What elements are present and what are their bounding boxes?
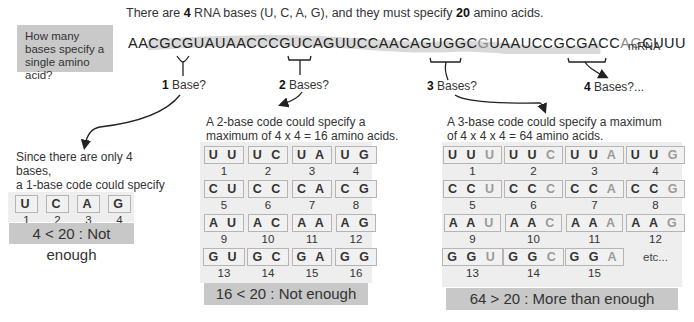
two-base-desc-line: A 2-base code could specify a [206, 115, 406, 129]
codon-tile: U U C [504, 146, 563, 164]
codon-cell: C A7 [290, 179, 334, 211]
codon-cell: C2 [42, 194, 73, 226]
one-base-result: 4 < 20 : Not enough [9, 223, 134, 244]
codon-number: 12 [625, 233, 686, 245]
codon-number: 8 [334, 199, 378, 211]
codon-cell: A C10 [246, 213, 290, 245]
three-base-desc-line: A 3-base code could specify a maximum [447, 115, 687, 129]
codon-tile: C G [335, 180, 376, 198]
codon-tile: U [15, 195, 37, 213]
codon-cell: C C A7 [564, 179, 625, 211]
codon-number: 5 [442, 199, 503, 211]
codon-cell: A A11 [290, 213, 334, 245]
codon-tile: A A C [505, 214, 563, 232]
codon-cell: G G A15 [564, 247, 625, 279]
codon-number: 4 [334, 165, 378, 177]
codon-number: 8 [625, 199, 686, 211]
codon-tile: G G C [503, 248, 563, 266]
codon-cell: A A A11 [564, 213, 625, 245]
codon-number: 3 [290, 165, 334, 177]
codon-tile: A A G [626, 214, 684, 232]
codon-number: 2 [503, 165, 564, 177]
codon-number: 2 [246, 165, 290, 177]
codon-number: 13 [202, 267, 246, 279]
codon-cell: G4 [104, 194, 135, 226]
codon-cell: U G4 [334, 145, 378, 177]
codon-number: 13 [442, 267, 503, 279]
codon-tile: U G [335, 146, 376, 164]
codon-tile: C U [204, 180, 245, 198]
one-base-codes-panel: U1C2A3G4 [8, 192, 134, 222]
four-bases-text: Bases?... [591, 80, 644, 94]
codon-tile: C C G [626, 180, 686, 198]
two-bases-question: 2 Bases? [279, 78, 329, 92]
codon-number: 12 [334, 233, 378, 245]
codon-tile: U U G [626, 146, 686, 164]
codon-number: 6 [246, 199, 290, 211]
codon-number: 9 [442, 233, 503, 245]
codon-tile: U A [292, 146, 332, 164]
four-bases-num: 4 [584, 80, 591, 94]
codon-number: 10 [246, 233, 290, 245]
codon-cell: U U1 [202, 145, 246, 177]
codon-cell: C C6 [246, 179, 290, 211]
codon-cell: A A G12 [625, 213, 686, 245]
codon-tile: A C [248, 214, 288, 232]
two-bases-text: Bases? [286, 78, 329, 92]
codon-cell: U U U1 [442, 145, 503, 177]
codon-tile: A [77, 195, 99, 213]
three-base-description: A 3-base code could specify a maximum of… [447, 115, 687, 143]
codon-cell: G G U13 [442, 247, 503, 279]
codon-cell: G G C14 [503, 247, 564, 279]
codon-number: 15 [564, 267, 625, 279]
codon-cell: U C2 [246, 145, 290, 177]
codon-tile: G U [203, 248, 244, 266]
one-base-question: 1 Base? [162, 78, 206, 92]
four-bases-question: 4 Bases?... [584, 80, 644, 94]
two-base-codes-panel: U U1U C2U A3U G4C U5C C6C A7C G8A U9A C1… [200, 142, 372, 283]
one-base-num: 1 [162, 78, 169, 92]
codon-number: 1 [202, 165, 246, 177]
codon-number: 15 [290, 267, 334, 279]
codon-cell: A3 [73, 194, 104, 226]
codon-tile: U U [204, 146, 245, 164]
codon-tile: U U U [443, 146, 502, 164]
one-base-desc-line: a 1-base code could specify [16, 178, 166, 192]
two-base-result: 16 < 20 : Not enough [204, 283, 368, 305]
codon-tile: G [108, 195, 131, 213]
etc-label: etc... [625, 247, 686, 279]
codon-number: 9 [202, 233, 246, 245]
codon-tile: G C [247, 248, 288, 266]
codon-cell: A U9 [202, 213, 246, 245]
codon-number: 11 [564, 233, 625, 245]
codon-cell: C C C6 [503, 179, 564, 211]
two-bases-num: 2 [279, 78, 286, 92]
codon-cell: U U A3 [564, 145, 625, 177]
codon-cell: C G8 [334, 179, 378, 211]
codon-cell: G G16 [334, 247, 378, 279]
one-base-desc-line: Since there are only 4 bases, [16, 150, 166, 178]
codon-cell: C C G8 [625, 179, 686, 211]
codon-number: 4 [625, 165, 686, 177]
codon-number: 7 [564, 199, 625, 211]
codon-cell: G C14 [246, 247, 290, 279]
codon-tile: C C [248, 180, 289, 198]
codon-number: 16 [334, 267, 378, 279]
codon-cell: U1 [11, 194, 42, 226]
codon-cell: A A C10 [503, 213, 564, 245]
codon-tile: G G [335, 248, 377, 266]
codon-number: 3 [564, 165, 625, 177]
codon-cell: U A3 [290, 145, 334, 177]
three-bases-num: 3 [427, 79, 434, 93]
codon-tile: G G U [442, 248, 502, 266]
three-bases-text: Bases? [434, 79, 477, 93]
codon-tile: C C C [504, 180, 563, 198]
codon-cell: G U13 [202, 247, 246, 279]
codon-tile: C C A [565, 180, 624, 198]
codon-number: 7 [290, 199, 334, 211]
codon-tile: A A U [444, 214, 502, 232]
codon-number: 11 [290, 233, 334, 245]
codon-tile: A U [204, 214, 244, 232]
codon-number: 5 [202, 199, 246, 211]
codon-number: 14 [503, 267, 564, 279]
